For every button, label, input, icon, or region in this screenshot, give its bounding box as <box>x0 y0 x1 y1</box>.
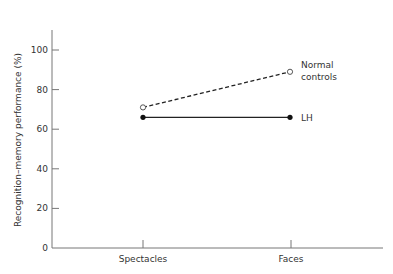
line-chart: 100 80 60 40 20 0 Recognition–memory per… <box>0 0 393 274</box>
x-tick-label: Spectacles <box>119 254 168 264</box>
normal-controls-line <box>143 72 290 108</box>
y-tick-label: 0 <box>42 243 48 253</box>
legend-normal-controls: Normal <box>301 60 334 70</box>
legend-lh: LH <box>301 113 313 123</box>
normal-controls-point <box>140 105 145 110</box>
y-tick-label: 100 <box>31 45 48 55</box>
legend-normal-controls: controls <box>301 72 337 82</box>
x-tick-label: Faces <box>278 254 303 264</box>
y-tick-label: 40 <box>37 164 49 174</box>
normal-controls-point <box>287 69 292 74</box>
lh-point <box>287 115 292 120</box>
y-tick-label: 20 <box>37 203 49 213</box>
y-ticks <box>52 50 59 208</box>
y-tick-label: 80 <box>37 85 49 95</box>
y-tick-labels: 100 80 60 40 20 0 <box>31 45 48 253</box>
y-axis-label: Recognition–memory performance (%) <box>13 53 23 227</box>
lh-point <box>140 115 145 120</box>
y-tick-label: 60 <box>37 124 49 134</box>
